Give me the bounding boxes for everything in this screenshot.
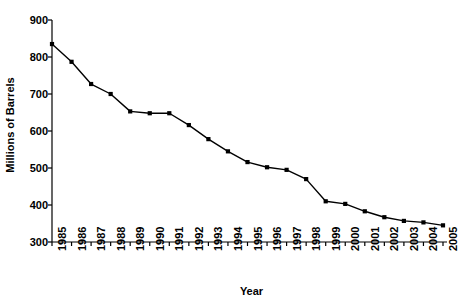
x-axis-tick-label: 1986 bbox=[76, 227, 88, 251]
x-axis-tick-label: 2001 bbox=[369, 227, 381, 251]
x-axis-tick-label: 2003 bbox=[408, 227, 420, 251]
x-axis-tick-label: 2002 bbox=[388, 227, 400, 251]
x-axis-title: Year bbox=[52, 285, 451, 297]
x-axis-tick-label: 1996 bbox=[271, 227, 283, 251]
x-axis-tick-label: 2004 bbox=[427, 227, 439, 251]
x-axis-tick-label: 1992 bbox=[193, 227, 205, 251]
x-axis-tick-label: 1993 bbox=[212, 227, 224, 251]
x-axis-tick-label: 1994 bbox=[232, 227, 244, 251]
x-axis-tick-label: 1998 bbox=[310, 227, 322, 251]
x-axis-tick-label: 2000 bbox=[349, 227, 361, 251]
x-axis-tick-label: 1989 bbox=[134, 227, 146, 251]
x-axis-tick-label: 1988 bbox=[115, 227, 127, 251]
x-axis-tick-label: 1995 bbox=[252, 227, 264, 251]
x-axis-tick-label: 1990 bbox=[154, 227, 166, 251]
x-axis-tick-label: 2005 bbox=[447, 227, 459, 251]
x-axis-tick-label: 1999 bbox=[330, 227, 342, 251]
x-axis-tick-label: 1997 bbox=[291, 227, 303, 251]
x-axis-tick-label: 1991 bbox=[173, 227, 185, 251]
x-axis-tick-label: 1987 bbox=[95, 227, 107, 251]
x-axis-tick-label: 1985 bbox=[56, 227, 68, 251]
